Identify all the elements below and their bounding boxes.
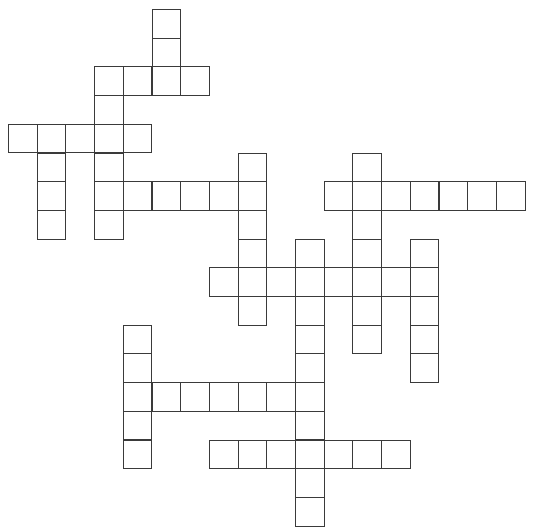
crossword-cell[interactable] [238,239,268,269]
crossword-cell[interactable] [410,181,440,211]
crossword-cell[interactable] [123,411,153,441]
crossword-cell[interactable] [295,267,325,297]
crossword-cell[interactable] [410,267,440,297]
crossword-cell[interactable] [295,353,325,383]
crossword-cell[interactable] [324,440,354,470]
crossword-cell[interactable] [94,153,124,183]
crossword-cell[interactable] [324,267,354,297]
crossword-cell[interactable] [123,382,153,412]
crossword-cell[interactable] [152,382,182,412]
crossword-cell[interactable] [352,325,382,355]
crossword-cell[interactable] [8,124,38,154]
crossword-cell[interactable] [37,181,67,211]
crossword-cell[interactable] [295,497,325,527]
crossword-cell[interactable] [295,440,325,470]
crossword-cell[interactable] [209,382,239,412]
crossword-cell[interactable] [180,181,210,211]
crossword-cell[interactable] [352,153,382,183]
crossword-cell[interactable] [352,296,382,326]
crossword-cell[interactable] [295,382,325,412]
crossword-cell[interactable] [152,9,182,39]
crossword-cell[interactable] [381,267,411,297]
crossword-cell[interactable] [295,411,325,441]
crossword-cell[interactable] [152,181,182,211]
crossword-cell[interactable] [123,353,153,383]
crossword-cell[interactable] [94,66,124,96]
crossword-cell[interactable] [295,296,325,326]
crossword-cell[interactable] [238,382,268,412]
crossword-cell[interactable] [496,181,526,211]
crossword-cell[interactable] [123,66,153,96]
crossword-cell[interactable] [209,440,239,470]
crossword-cell[interactable] [94,210,124,240]
crossword-cell[interactable] [295,325,325,355]
crossword-cell[interactable] [94,95,124,125]
crossword-cell[interactable] [266,440,296,470]
crossword-cell[interactable] [352,181,382,211]
crossword-cell[interactable] [123,325,153,355]
crossword-cell[interactable] [352,210,382,240]
crossword-cell[interactable] [439,181,469,211]
crossword-cell[interactable] [37,124,67,154]
crossword-cell[interactable] [238,210,268,240]
crossword-cell[interactable] [123,440,153,470]
crossword-cell[interactable] [94,181,124,211]
crossword-cell[interactable] [94,124,124,154]
crossword-cell[interactable] [37,210,67,240]
crossword-cell[interactable] [266,382,296,412]
crossword-cell[interactable] [295,468,325,498]
crossword-cell[interactable] [209,267,239,297]
crossword-cell[interactable] [352,239,382,269]
crossword-cell[interactable] [467,181,497,211]
crossword-cell[interactable] [324,181,354,211]
crossword-cell[interactable] [37,153,67,183]
crossword-cell[interactable] [238,181,268,211]
crossword-cell[interactable] [238,296,268,326]
crossword-cell[interactable] [123,181,153,211]
crossword-cell[interactable] [209,181,239,211]
crossword-cell[interactable] [410,296,440,326]
crossword-cell[interactable] [238,153,268,183]
crossword-cell[interactable] [65,124,95,154]
crossword-cell[interactable] [152,66,182,96]
crossword-cell[interactable] [295,239,325,269]
crossword-cell[interactable] [352,267,382,297]
crossword-cell[interactable] [352,440,382,470]
crossword-cell[interactable] [381,181,411,211]
crossword-cell[interactable] [123,124,153,154]
crossword-cell[interactable] [266,267,296,297]
crossword-cell[interactable] [381,440,411,470]
crossword-cell[interactable] [410,325,440,355]
crossword-cell[interactable] [238,267,268,297]
crossword-cell[interactable] [238,440,268,470]
crossword-grid [0,0,536,529]
crossword-cell[interactable] [180,66,210,96]
crossword-cell[interactable] [410,353,440,383]
crossword-cell[interactable] [180,382,210,412]
crossword-cell[interactable] [152,38,182,68]
crossword-cell[interactable] [410,239,440,269]
